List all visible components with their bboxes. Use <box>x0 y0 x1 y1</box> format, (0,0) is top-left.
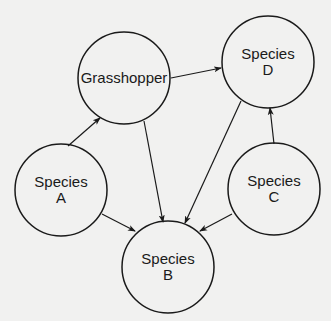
node-label: A <box>56 189 66 206</box>
nodes-group: GrasshopperSpeciesDSpeciesASpeciesCSpeci… <box>15 16 320 313</box>
node-label: C <box>269 188 280 205</box>
food-web-diagram: GrasshopperSpeciesDSpeciesASpeciesCSpeci… <box>0 0 331 321</box>
node-label: B <box>163 266 173 283</box>
node-label: Species <box>241 45 294 62</box>
node-species-d: SpeciesD <box>222 16 314 108</box>
edges-group <box>68 68 274 231</box>
arrow-species-a-to-grasshopper <box>68 118 100 146</box>
node-label: D <box>263 61 274 78</box>
arrow-species-a-to-species-b <box>102 214 135 231</box>
arrow-grasshopper-to-species-b <box>144 121 163 222</box>
arrow-species-c-to-species-b <box>200 214 232 231</box>
node-species-c: SpeciesC <box>228 143 320 235</box>
arrow-species-c-to-species-d <box>270 108 274 144</box>
arrow-grasshopper-to-species-d <box>171 68 221 78</box>
node-species-a: SpeciesA <box>15 144 107 236</box>
diagram-canvas: GrasshopperSpeciesDSpeciesASpeciesCSpeci… <box>0 0 331 321</box>
node-label: Species <box>247 172 300 189</box>
node-label: Grasshopper <box>81 69 168 86</box>
node-grasshopper: Grasshopper <box>78 32 170 124</box>
node-label: Species <box>141 250 194 267</box>
node-species-b: SpeciesB <box>122 221 214 313</box>
arrow-species-d-to-species-b <box>185 101 241 223</box>
node-label: Species <box>34 173 87 190</box>
